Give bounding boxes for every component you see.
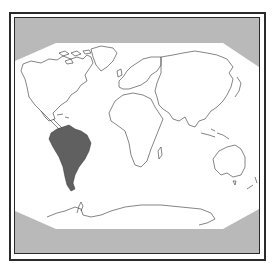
map-inner-frame	[14, 17, 260, 254]
world-map	[15, 18, 259, 253]
